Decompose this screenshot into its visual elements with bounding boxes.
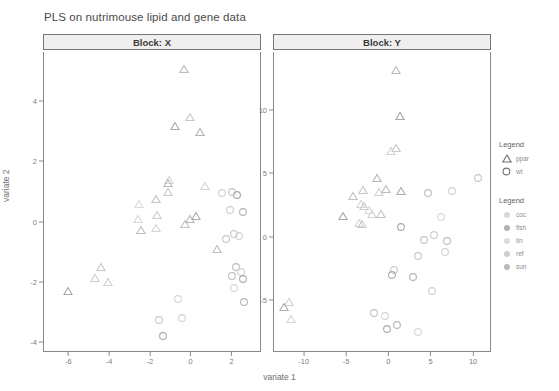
data-point <box>234 231 243 240</box>
x-tick: -10 <box>298 352 309 366</box>
y-tick: -5 <box>260 296 273 305</box>
legend-items: pparwt <box>499 152 529 178</box>
y-tick: -4 <box>30 337 43 346</box>
y-tick: 0 <box>263 232 273 241</box>
x-tick: -6 <box>65 352 72 366</box>
color-swatch-icon <box>499 225 514 231</box>
data-point <box>159 332 168 341</box>
x-tick: -4 <box>106 352 113 366</box>
legend-item-coc[interactable]: coc <box>499 208 526 221</box>
plot-area-block-x <box>43 52 261 352</box>
data-point <box>357 219 367 228</box>
data-point <box>151 224 161 233</box>
legend-item-ref[interactable]: ref <box>499 247 526 260</box>
data-point <box>413 328 422 337</box>
data-point <box>170 121 180 130</box>
data-point <box>381 184 391 193</box>
y-tick: 2 <box>33 157 43 166</box>
color-swatch-icon <box>499 238 514 244</box>
legend-items: cocfishlinrefsun <box>499 208 526 273</box>
data-point <box>391 65 401 74</box>
data-point <box>103 278 113 287</box>
legend-item-label: sun <box>516 263 526 270</box>
data-point <box>427 287 436 296</box>
legend-item-label: lin <box>516 237 523 244</box>
legend-item-sun[interactable]: sun <box>499 260 526 273</box>
data-point <box>218 189 227 198</box>
circle-icon <box>499 167 514 176</box>
data-point <box>179 64 189 73</box>
data-point <box>338 212 348 221</box>
data-point <box>393 321 402 330</box>
data-point <box>191 212 201 221</box>
x-tick: -5 <box>343 352 350 366</box>
legend-item-ppar[interactable]: ppar <box>499 152 529 165</box>
color-swatch-icon <box>499 212 514 218</box>
x-tick: 0 <box>189 352 193 366</box>
legend-item-wt[interactable]: wt <box>499 165 529 178</box>
legend-item-label: fish <box>516 224 526 231</box>
data-point <box>372 174 382 183</box>
data-point <box>397 222 406 231</box>
x-axis-label: variate 1 <box>0 372 559 382</box>
data-point <box>443 236 452 245</box>
color-swatch-icon <box>499 251 514 257</box>
data-point <box>228 187 237 196</box>
y-tick: -2 <box>30 277 43 286</box>
data-point <box>152 210 162 219</box>
panel-block-y: Block: Y <box>273 34 491 352</box>
data-point <box>474 173 483 182</box>
triangle-icon <box>499 154 514 163</box>
legend-item-label: coc <box>516 211 526 218</box>
data-point <box>63 287 73 296</box>
data-point <box>200 181 210 190</box>
legend-title: Legend <box>499 140 529 149</box>
data-point <box>228 272 237 281</box>
data-point <box>419 236 428 245</box>
data-point <box>386 146 396 155</box>
x-tick: -2 <box>147 352 154 366</box>
data-point <box>133 215 143 224</box>
data-point <box>195 127 205 136</box>
data-point <box>388 271 397 280</box>
data-point <box>163 178 173 187</box>
data-point <box>382 325 391 334</box>
x-tick: 10 <box>469 352 477 366</box>
data-point <box>348 191 358 200</box>
page-title: PLS on nutrimouse lipid and gene data <box>44 11 246 23</box>
legend-item-label: ppar <box>516 155 529 162</box>
data-point <box>429 231 438 240</box>
data-point <box>155 315 164 324</box>
data-point <box>136 225 146 234</box>
color-swatch-icon <box>499 264 514 270</box>
panel-block-x: Block: X <box>43 34 261 352</box>
panel-strip-y: Block: Y <box>273 34 491 50</box>
legend-item-label: wt <box>516 168 523 175</box>
x-tick: 5 <box>429 352 433 366</box>
plot-area-block-y <box>273 52 491 352</box>
data-point <box>177 314 186 323</box>
data-point <box>279 302 289 311</box>
data-point <box>395 112 405 121</box>
data-point <box>437 213 446 222</box>
data-point <box>423 189 432 198</box>
data-point <box>134 200 144 209</box>
data-point <box>364 205 374 214</box>
x-tick: 0 <box>386 352 390 366</box>
y-axis-block-y: -50510 <box>247 52 273 352</box>
data-point <box>413 251 422 260</box>
legend-item-fish[interactable]: fish <box>499 221 526 234</box>
data-point <box>370 309 379 318</box>
plot-root: PLS on nutrimouse lipid and gene data Bl… <box>0 0 559 391</box>
x-axis-block-y: -10-50510 <box>273 352 491 370</box>
data-point <box>409 273 418 282</box>
data-point <box>376 210 386 219</box>
data-point <box>151 195 161 204</box>
data-point <box>229 284 238 293</box>
data-point <box>212 245 222 254</box>
y-tick: 5 <box>263 169 273 178</box>
legend-item-lin[interactable]: lin <box>499 234 526 247</box>
data-point <box>448 186 457 195</box>
legend-item-label: ref <box>516 250 524 257</box>
data-point <box>396 187 406 196</box>
